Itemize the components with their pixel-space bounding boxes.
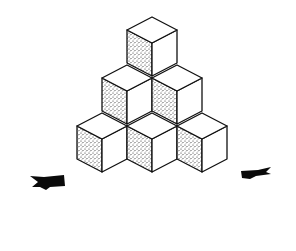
cube-bottom: [127, 113, 177, 172]
cube-top: [127, 17, 177, 76]
arrow-right-icon: [241, 167, 271, 179]
cubes-group: [77, 17, 227, 172]
arrow-left-icon: [30, 175, 65, 190]
cube-bottom: [77, 113, 127, 172]
cube-middle: [102, 65, 152, 124]
cube-pyramid-drawing: [0, 0, 296, 251]
cube-middle: [152, 65, 202, 124]
cube-bottom: [177, 113, 227, 172]
cube-pyramid-figure: [0, 0, 296, 251]
